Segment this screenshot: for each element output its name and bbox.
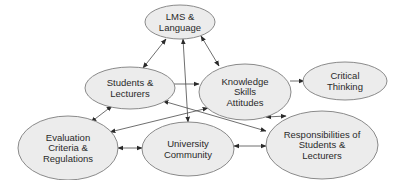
- node-students: Students &Lecturers: [85, 67, 175, 109]
- node-lms: LMS &Language: [145, 5, 215, 39]
- node-label-critical: Thinking: [327, 81, 363, 92]
- edge-lms-knowledge: [201, 36, 219, 66]
- node-label-responsibilities: Responsibilities of: [284, 129, 361, 140]
- node-label-knowledge: Skills: [234, 86, 256, 97]
- node-label-responsibilities: Students &: [299, 139, 346, 150]
- edge-students-evaluation: [91, 106, 112, 122]
- node-label-evaluation: Regulations: [43, 153, 93, 164]
- edge-lms-university: [183, 39, 188, 122]
- node-label-knowledge: Knowledge: [221, 76, 268, 87]
- concept-diagram: LMS &LanguageStudents &LecturersKnowledg…: [0, 0, 419, 180]
- node-label-lms: LMS &: [166, 11, 195, 22]
- node-label-lms: Language: [159, 22, 201, 33]
- node-label-evaluation: Evaluation: [46, 132, 90, 143]
- node-label-students: Lecturers: [110, 88, 150, 99]
- node-knowledge: KnowledgeSkillsAttitudes: [199, 64, 291, 120]
- node-label-knowledge: Attitudes: [227, 97, 264, 108]
- node-university: UniversityCommunity: [142, 122, 234, 176]
- node-label-university: Community: [164, 149, 212, 160]
- node-evaluation: EvaluationCriteria &Regulations: [18, 116, 118, 180]
- node-responsibilities: Responsibilities ofStudents &Lecturers: [266, 111, 378, 179]
- nodes-layer: LMS &LanguageStudents &LecturersKnowledg…: [18, 5, 387, 180]
- node-critical: CriticalThinking: [303, 62, 387, 100]
- node-label-critical: Critical: [330, 70, 359, 81]
- node-label-responsibilities: Lecturers: [302, 150, 342, 161]
- node-label-evaluation: Criteria &: [48, 142, 88, 153]
- node-label-students: Students &: [107, 77, 154, 88]
- node-label-university: University: [167, 138, 209, 149]
- edge-lms-students: [143, 39, 166, 68]
